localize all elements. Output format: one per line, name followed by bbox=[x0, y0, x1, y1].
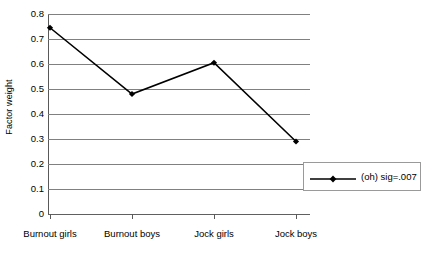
series-polyline bbox=[50, 28, 296, 142]
diamond-marker bbox=[330, 175, 337, 182]
legend-marker-swatch bbox=[310, 171, 356, 183]
x-axis-tick-label: Jock girls bbox=[194, 228, 234, 239]
y-axis-tick-label: 0.6 bbox=[18, 59, 44, 69]
y-axis-tick-label: 0.7 bbox=[18, 34, 44, 44]
x-axis-tick-label: Burnout girls bbox=[23, 228, 76, 239]
plot-area bbox=[48, 14, 310, 214]
y-axis-tick-label: 0.2 bbox=[18, 159, 44, 169]
x-axis-tick-labels: Burnout girlsBurnout boysJock girlsJock … bbox=[0, 228, 340, 244]
x-axis-tick-label: Burnout boys bbox=[104, 228, 160, 239]
x-axis-tick-label: Jock boys bbox=[275, 228, 317, 239]
x-axis-tick bbox=[50, 214, 51, 219]
series-markers bbox=[47, 25, 299, 145]
y-axis-tick-label: 0.8 bbox=[18, 9, 44, 19]
x-axis-tick bbox=[132, 214, 133, 219]
y-axis-tick-label: 0.3 bbox=[18, 134, 44, 144]
y-axis-tick-label: 0 bbox=[18, 209, 44, 219]
x-axis-tick bbox=[214, 214, 215, 219]
y-axis-tick-labels: 0.80.70.60.50.40.30.20.10 bbox=[14, 0, 44, 255]
y-axis-tick-label: 0.1 bbox=[18, 184, 44, 194]
y-axis-tick-label: 0.4 bbox=[18, 109, 44, 119]
y-axis-title-text: Factor weight bbox=[4, 79, 14, 134]
chart-legend: (oh) sig=.007 bbox=[303, 162, 421, 191]
x-axis-tick bbox=[296, 214, 297, 219]
chart-figure: Factor weight 0.80.70.60.50.40.30.20.10 … bbox=[0, 0, 425, 255]
y-axis-tick-label: 0.5 bbox=[18, 84, 44, 94]
x-axis-ticks bbox=[48, 214, 310, 220]
legend-entry-label: (oh) sig=.007 bbox=[361, 171, 417, 182]
series-line-chart bbox=[48, 14, 310, 214]
